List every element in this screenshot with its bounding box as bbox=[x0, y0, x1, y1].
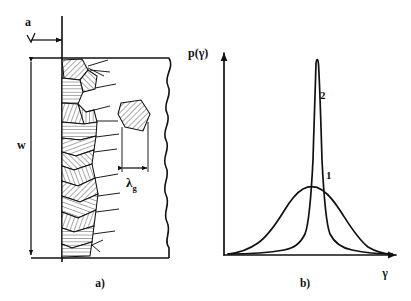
label-width: w bbox=[17, 138, 26, 152]
curve-label-2: 2 bbox=[320, 89, 326, 101]
curve-label-1: 1 bbox=[326, 169, 332, 181]
label-crack-length: a bbox=[25, 15, 31, 29]
grain-polygon bbox=[62, 78, 83, 104]
panel-b: p(γ) γ 1 2 b) bbox=[188, 46, 396, 290]
grain-microstructure bbox=[62, 59, 120, 257]
distribution-curve-2 bbox=[228, 60, 392, 255]
crack-length-dimension bbox=[27, 33, 62, 42]
label-grain-size-subscript: g bbox=[132, 183, 137, 193]
figure-container: a w bbox=[0, 0, 411, 301]
panel-a: a w bbox=[17, 15, 171, 290]
panel-a-caption: a) bbox=[95, 277, 105, 290]
reference-grain bbox=[118, 100, 150, 131]
panel-b-caption: b) bbox=[300, 277, 310, 290]
label-grain-size: λg bbox=[126, 175, 137, 193]
scientific-figure: a w bbox=[0, 0, 411, 301]
y-axis-label: p(γ) bbox=[188, 46, 208, 60]
specimen-outline bbox=[31, 58, 171, 258]
x-axis-label: γ bbox=[381, 266, 388, 280]
